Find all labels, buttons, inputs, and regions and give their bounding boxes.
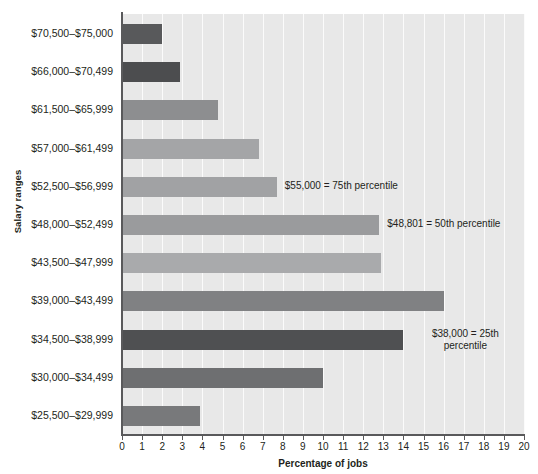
x-axis-tick xyxy=(383,435,384,440)
bar xyxy=(122,177,277,197)
y-axis-tick-label: $48,000–$52,499 xyxy=(0,218,113,230)
y-axis-tick-label: $52,500–$56,999 xyxy=(0,180,113,192)
y-axis-tick-label: $66,000–$70,499 xyxy=(0,65,113,77)
bar xyxy=(122,406,200,426)
x-axis-tick xyxy=(484,435,485,440)
x-axis-tick xyxy=(243,435,244,440)
x-axis-tick xyxy=(504,435,505,440)
x-axis-tick xyxy=(363,435,364,440)
x-axis-tick xyxy=(444,435,445,440)
x-axis-tick xyxy=(303,435,304,440)
x-axis-tick xyxy=(424,435,425,440)
y-axis-tick-label: $70,500–$75,000 xyxy=(0,27,113,39)
bar xyxy=(122,291,444,311)
x-axis-tick-label: 20 xyxy=(512,441,536,452)
bar xyxy=(122,330,403,350)
x-axis-tick xyxy=(162,435,163,440)
bar xyxy=(122,215,379,235)
x-axis-title: Percentage of jobs xyxy=(122,458,524,469)
x-axis-tick xyxy=(263,435,264,440)
bar xyxy=(122,62,180,82)
y-axis-tick-label: $61,500–$65,999 xyxy=(0,103,113,115)
y-axis-title: Salary ranges xyxy=(12,147,23,257)
gridline xyxy=(524,14,525,434)
x-axis-tick xyxy=(464,435,465,440)
bar xyxy=(122,253,381,273)
bar xyxy=(122,139,259,159)
y-axis-tick-label: $34,500–$38,999 xyxy=(0,333,113,345)
x-axis-tick xyxy=(343,435,344,440)
x-axis-tick xyxy=(283,435,284,440)
y-axis-tick-label: $43,500–$47,999 xyxy=(0,256,113,268)
x-axis-tick xyxy=(323,435,324,440)
y-axis-line xyxy=(121,12,123,436)
annotation-label: $38,000 = 25thpercentile xyxy=(411,328,519,353)
y-axis-tick-label: $25,500–$29,999 xyxy=(0,409,113,421)
y-axis-tick-label: $39,000–$43,499 xyxy=(0,294,113,306)
x-axis-tick xyxy=(524,435,525,440)
x-axis-tick xyxy=(122,435,123,440)
y-axis-tick-label: $30,000–$34,499 xyxy=(0,371,113,383)
bar-chart: Salary ranges $55,000 = 75th percentile$… xyxy=(0,0,538,474)
annotation-label: $55,000 = 75th percentile xyxy=(285,180,398,193)
x-axis-tick xyxy=(182,435,183,440)
x-axis-tick xyxy=(142,435,143,440)
bar xyxy=(122,368,323,388)
y-axis-tick-label: $57,000–$61,499 xyxy=(0,142,113,154)
x-axis-tick xyxy=(403,435,404,440)
annotation-label: $48,801 = 50th percentile xyxy=(387,218,500,231)
x-axis-tick xyxy=(223,435,224,440)
bar xyxy=(122,24,162,44)
x-axis-tick xyxy=(202,435,203,440)
bar xyxy=(122,100,218,120)
plot-area: $55,000 = 75th percentile$48,801 = 50th … xyxy=(122,14,524,434)
